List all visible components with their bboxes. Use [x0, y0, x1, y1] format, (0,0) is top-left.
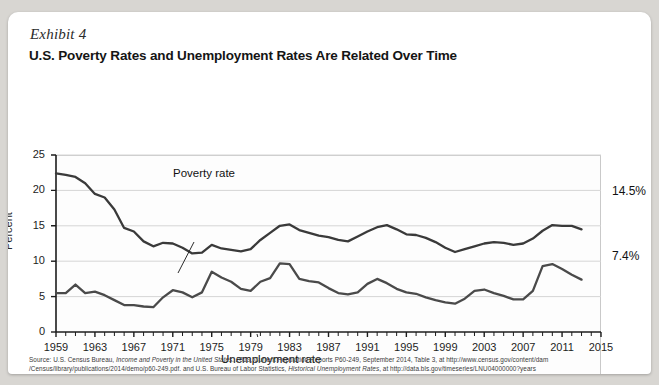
x-tick-label: 1959: [34, 341, 78, 353]
source-line-2: /Census/library/publications/2014/demo/p…: [29, 364, 637, 373]
poverty-end-value: 14.5%: [612, 184, 646, 198]
source-text-2a: /Census/library/publications/2014/demo/p…: [29, 365, 288, 372]
x-tick-label: 1983: [268, 341, 312, 353]
unemployment-end-value: 7.4%: [612, 249, 639, 263]
y-tick-label: 15: [19, 219, 45, 231]
source-text-1b: , Current Population Reports P60-249, Se…: [250, 356, 548, 363]
chart-canvas: [8, 72, 651, 337]
source-note: Source: U.S. Census Bureau, Income and P…: [29, 355, 637, 374]
x-tick-label: 1971: [151, 341, 195, 353]
x-tick-label: 2015: [579, 341, 623, 353]
y-tick-label: 5: [19, 290, 45, 302]
y-tick-label: 10: [19, 254, 45, 266]
x-tick-label: 1975: [190, 341, 234, 353]
y-tick-label: 25: [19, 148, 45, 160]
series-line-unemployment: [56, 263, 582, 307]
exhibit-card: Exhibit 4 U.S. Poverty Rates and Unemplo…: [8, 12, 651, 374]
y-axis-title: Percent: [8, 212, 14, 250]
x-tick-label: 1999: [423, 341, 467, 353]
source-italic-2: Historical Unemployment Rates: [288, 365, 379, 372]
y-tick-label: 0: [19, 325, 45, 337]
x-tick-label: 2007: [501, 341, 545, 353]
x-tick-label: 1967: [112, 341, 156, 353]
x-tick-label: 1987: [307, 341, 351, 353]
x-tick-label: 1991: [345, 341, 389, 353]
page-title: U.S. Poverty Rates and Unemployment Rate…: [29, 48, 457, 63]
source-text-2b: , at http://data.bls.gov/timeseries/LNU0…: [379, 365, 536, 372]
poverty-rate-label: Poverty rate: [173, 167, 235, 179]
source-italic-1: Income and Poverty in the United States:…: [116, 356, 250, 363]
chart-figure: Percent 05101520251959196319671971197519…: [8, 72, 651, 337]
source-line-1: Source: U.S. Census Bureau, Income and P…: [29, 355, 637, 364]
x-tick-label: 1979: [229, 341, 273, 353]
series-line-poverty: [56, 173, 582, 253]
x-tick-label: 1995: [384, 341, 428, 353]
y-tick-label: 20: [19, 183, 45, 195]
x-tick-label: 1963: [73, 341, 117, 353]
x-tick-label: 2003: [462, 341, 506, 353]
x-tick-label: 2011: [540, 341, 584, 353]
source-text-1a: Source: U.S. Census Bureau,: [29, 356, 116, 363]
source-line-3: _option=all_years&periods_option=specifi…: [29, 373, 637, 374]
exhibit-label: Exhibit 4: [30, 26, 86, 43]
